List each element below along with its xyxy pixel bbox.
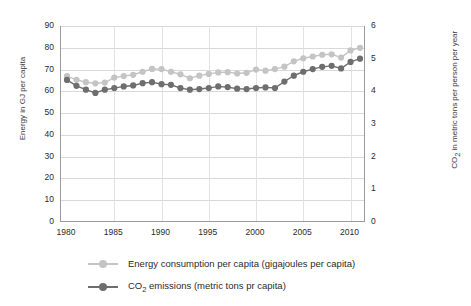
data-point <box>92 80 98 86</box>
data-point <box>310 66 316 72</box>
legend-label-co2-pre: CO <box>128 280 142 291</box>
data-point <box>130 82 136 88</box>
data-point <box>196 86 202 92</box>
data-point <box>121 83 127 89</box>
data-point <box>272 66 278 72</box>
x-axis-tick-label: 1980 <box>46 227 86 237</box>
data-point <box>281 64 287 70</box>
y-axis-right-tick-label: 3 <box>371 118 395 128</box>
data-point <box>234 86 240 92</box>
y-axis-left-tick-label: 30 <box>30 151 54 161</box>
legend-item-energy: Energy consumption per capita (gigajoule… <box>0 252 471 275</box>
data-point <box>347 47 353 53</box>
data-point <box>357 45 363 51</box>
y-axis-left-tick-label: 50 <box>30 107 54 117</box>
y-axis-right-tick-label: 2 <box>371 151 395 161</box>
series-line <box>67 48 360 84</box>
x-axis-tick-label: 1990 <box>141 227 181 237</box>
data-point <box>300 55 306 61</box>
y-axis-right-title: CO2 in metric tons per person per year <box>450 0 462 200</box>
data-point <box>92 90 98 96</box>
data-point <box>281 78 287 84</box>
data-point <box>121 73 127 79</box>
series-energy <box>64 45 363 87</box>
data-point <box>177 71 183 77</box>
data-point <box>225 84 231 90</box>
y-axis-right-title-sub: 2 <box>453 153 462 157</box>
y-axis-left-tick-label: 20 <box>30 172 54 182</box>
y-axis-left-title: Energy in GJ per capita <box>18 15 27 183</box>
data-point <box>140 80 146 86</box>
data-point <box>140 69 146 75</box>
data-point <box>187 87 193 93</box>
data-point <box>253 66 259 72</box>
data-point <box>329 51 335 57</box>
y-axis-right-title-wrap: CO2 in metric tons per person per year <box>440 28 456 228</box>
y-axis-left-tick-label: 10 <box>30 194 54 204</box>
y-axis-left-tick-label: 60 <box>30 85 54 95</box>
y-axis-left-tick-label: 40 <box>30 129 54 139</box>
data-point <box>291 73 297 79</box>
data-point <box>130 72 136 78</box>
legend-swatch-co2 <box>88 281 118 292</box>
legend-label-co2-post: emissions (metric tons pr capita) <box>146 280 285 291</box>
series-co2 <box>64 56 363 97</box>
data-point <box>329 63 335 69</box>
data-point <box>158 66 164 72</box>
data-point <box>102 80 108 86</box>
y-axis-left-tick-label: 0 <box>30 216 54 226</box>
x-axis-tick-label: 1995 <box>188 227 228 237</box>
x-axis-tick-label: 1985 <box>93 227 133 237</box>
data-point <box>73 83 79 89</box>
data-point <box>253 85 259 91</box>
legend-label-co2: CO2 emissions (metric tons pr capita) <box>128 280 286 294</box>
data-point <box>215 83 221 89</box>
y-axis-right-tick-label: 5 <box>371 53 395 63</box>
plot-area <box>60 26 365 222</box>
data-point <box>168 82 174 88</box>
data-point <box>196 73 202 79</box>
data-point <box>319 52 325 58</box>
data-point <box>177 85 183 91</box>
y-axis-right-title-post: in metric tons per person per year <box>450 31 459 153</box>
data-point <box>262 84 268 90</box>
y-axis-right-tick-label: 4 <box>371 85 395 95</box>
data-point <box>338 54 344 60</box>
line-chart: Energy in GJ per capita CO2 in metric to… <box>0 0 471 306</box>
series-line <box>67 59 360 93</box>
data-point <box>234 70 240 76</box>
data-point <box>347 59 353 65</box>
data-point <box>111 85 117 91</box>
data-point <box>149 79 155 85</box>
y-axis-left-tick-label: 80 <box>30 42 54 52</box>
y-axis-left-title-wrap: Energy in GJ per capita <box>8 40 24 220</box>
data-point <box>102 87 108 93</box>
legend-swatch-energy <box>88 258 118 269</box>
data-point <box>64 77 70 83</box>
y-axis-right-tick-label: 1 <box>371 183 395 193</box>
data-point <box>319 64 325 70</box>
y-axis-right-title-pre: CO <box>450 157 459 169</box>
data-point <box>300 69 306 75</box>
data-point <box>291 58 297 64</box>
y-axis-right-tick-label: 6 <box>371 20 395 30</box>
data-point <box>272 85 278 91</box>
legend-item-co2: CO2 emissions (metric tons pr capita) <box>0 275 471 298</box>
chart-legend: Energy consumption per capita (gigajoule… <box>0 252 471 298</box>
data-point <box>83 79 89 85</box>
data-point <box>215 69 221 75</box>
series-layer <box>61 26 366 222</box>
y-axis-right-tick-label: 0 <box>371 216 395 226</box>
data-point <box>243 70 249 76</box>
data-point <box>310 53 316 59</box>
y-axis-left-tick-label: 90 <box>30 20 54 30</box>
data-point <box>243 86 249 92</box>
data-point <box>262 68 268 74</box>
data-point <box>338 65 344 71</box>
data-point <box>149 66 155 72</box>
data-point <box>73 77 79 83</box>
legend-label-energy: Energy consumption per capita (gigajoule… <box>128 258 355 269</box>
data-point <box>168 69 174 75</box>
x-axis-tick-label: 2000 <box>235 227 275 237</box>
data-point <box>357 56 363 62</box>
